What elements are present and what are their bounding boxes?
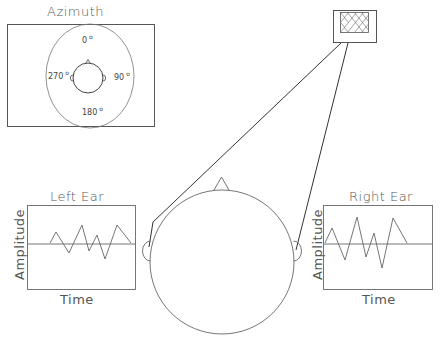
left-ear-xlabel: Time — [60, 292, 94, 307]
angle-label-270: 270o — [48, 69, 69, 81]
angle-value: 180 — [82, 108, 97, 117]
listener-head — [143, 177, 302, 334]
sound-path-left — [153, 43, 341, 222]
right-ear-waveform — [325, 217, 407, 268]
sound-source — [334, 11, 377, 43]
left-ear-chart — [28, 206, 136, 290]
left-ear-title: Left Ear — [50, 189, 104, 204]
degree-symbol: o — [65, 69, 69, 76]
angle-value: 90 — [114, 73, 124, 82]
left-ear-ylabel: Amplitude — [12, 209, 27, 280]
azimuth-head-icon — [73, 63, 103, 93]
right-ear-chart — [324, 206, 433, 290]
diagram-canvas — [0, 0, 443, 337]
sound-source-frame — [334, 11, 377, 43]
head-icon — [150, 190, 294, 334]
azimuth-frame — [8, 25, 155, 127]
degree-symbol: o — [99, 105, 103, 112]
angle-label-0: 0o — [82, 33, 93, 45]
left-ear-waveform — [50, 225, 131, 259]
degree-symbol: o — [126, 70, 130, 77]
right-ear-title: Right Ear — [349, 189, 413, 204]
angle-label-180: 180o — [82, 105, 103, 117]
nose-icon — [214, 177, 230, 191]
azimuth-title: Azimuth — [47, 4, 104, 19]
left-ear-chart-frame — [28, 206, 136, 290]
angle-value: 270 — [48, 72, 63, 81]
right-ear-xlabel: Time — [362, 292, 396, 307]
right-ear-ylabel: Amplitude — [310, 209, 325, 280]
degree-symbol: o — [89, 33, 93, 40]
azimuth-panel — [8, 24, 155, 128]
angle-value: 0 — [82, 36, 87, 45]
angle-label-90: 90o — [114, 70, 130, 82]
